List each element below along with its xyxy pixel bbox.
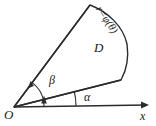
angle-alpha-label: α: [84, 91, 90, 103]
polar-sector-figure: O x D α β r=φ(θ): [0, 0, 156, 126]
angle-alpha-arc: [74, 91, 76, 106]
figure-canvas: [0, 0, 156, 126]
region-label: D: [94, 41, 103, 54]
x-axis-label: x: [140, 110, 145, 122]
origin-label: O: [4, 108, 13, 121]
arrow-right-icon: [141, 102, 149, 109]
x-axis-line: [14, 105, 146, 107]
angle-beta-label: β: [49, 74, 55, 86]
